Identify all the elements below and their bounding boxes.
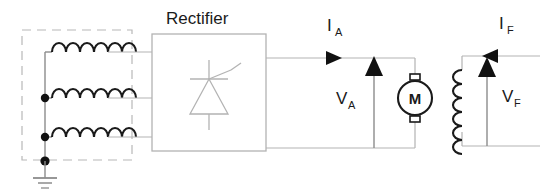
- phase-3-winding: [41, 128, 152, 141]
- source-dashed-enclosure: [22, 30, 132, 160]
- field-current-label: I F: [499, 14, 514, 36]
- field-voltage-arrow-icon: [478, 57, 496, 146]
- armature-current-label: I A: [327, 16, 343, 38]
- armature-voltage-label: V A: [336, 89, 356, 111]
- armature-current-arrow-icon: [326, 51, 342, 65]
- field-current-subscript: F: [507, 24, 514, 36]
- field-voltage-subscript: F: [514, 97, 521, 109]
- armature-voltage-symbol: V: [336, 89, 348, 108]
- motor-bottom-brush-icon: [410, 116, 420, 122]
- phase-3-coil-icon: [52, 128, 136, 137]
- rectifier-title: Rectifier: [166, 9, 229, 28]
- field-voltage-symbol: V: [502, 87, 514, 106]
- field-winding-coil-icon: [453, 70, 462, 154]
- rectifier-box[interactable]: [152, 34, 266, 151]
- phase-1-coil-icon: [52, 43, 136, 52]
- field-current-symbol: I: [499, 14, 504, 33]
- ground-symbol: [33, 156, 57, 188]
- motor-letter: M: [409, 90, 422, 107]
- phase-2-coil-icon: [52, 89, 136, 98]
- motor-symbol[interactable]: M: [398, 74, 432, 122]
- phase-2-junction-dot: [41, 94, 49, 102]
- circuit-svg: Rectifier I A V A M: [0, 0, 540, 194]
- rectifier-block[interactable]: [152, 34, 266, 151]
- phase-2-winding: [41, 89, 152, 102]
- phase-1-winding: [45, 43, 152, 52]
- armature-voltage-arrow-head: [365, 56, 383, 76]
- phase-3-junction-dot: [41, 133, 49, 141]
- field-current-arrow-icon: [482, 49, 498, 63]
- armature-current-subscript: A: [335, 26, 343, 38]
- armature-voltage-subscript: A: [348, 99, 356, 111]
- circuit-diagram: Rectifier I A V A M: [0, 0, 540, 194]
- field-voltage-label: V F: [502, 87, 521, 109]
- armature-voltage-arrow-icon: [365, 56, 383, 148]
- armature-current-symbol: I: [327, 16, 332, 35]
- motor-top-brush-icon: [410, 74, 420, 80]
